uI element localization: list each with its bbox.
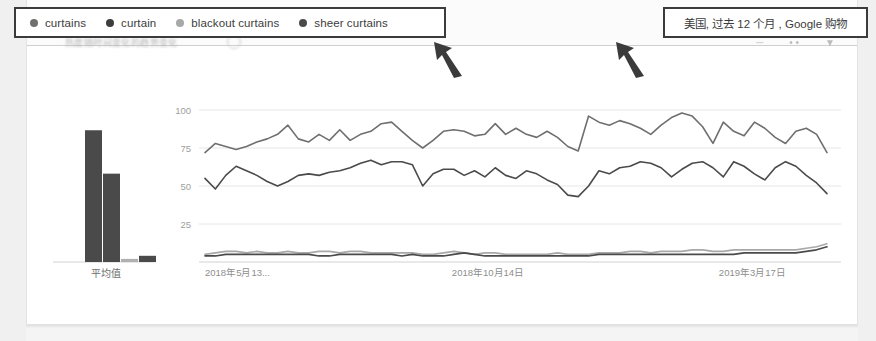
x-axis-tick-label: 2018年5月13... [205,267,270,278]
line-series-curtain[interactable] [205,160,827,196]
legend-item-label: curtains [45,17,86,29]
legend-item-curtain[interactable]: curtain [106,17,156,29]
legend-item-label: sheer curtains [314,17,388,29]
legend-highlight-box: curtainscurtainblackout curtainssheer cu… [14,7,446,38]
legend-dot-icon [30,19,38,27]
y-axis-tick-label: 50 [180,181,191,192]
x-axis-tick-label: 2019年3月17日 [719,267,786,278]
bar-chart-axis-label: 平均值 [91,267,121,279]
right-gutter [858,0,876,341]
bar-curtains[interactable] [85,130,102,262]
legend-dot-icon [299,19,307,27]
legend-item-sheer-curtains[interactable]: sheer curtains [299,17,388,29]
left-gutter [0,0,26,341]
legend-dot-icon [106,19,114,27]
trends-chart[interactable]: 2550751002018年5月13...2018年10月14日2019年3月1… [27,47,857,279]
card-shadow [26,325,858,328]
locale-highlight-box: 美国, 过去 12 个月 , Google 购物 [663,7,868,38]
legend-item-blackout-curtains[interactable]: blackout curtains [176,17,279,29]
x-axis-tick-label: 2018年10月14日 [452,267,524,278]
y-axis-tick-label: 75 [180,143,191,154]
screenshot-root: 热度随时间变化的趋势变化 ─ • • ▼ 2550751002018年5月13.… [0,0,876,341]
legend-item-label: blackout curtains [191,17,279,29]
y-axis-tick-label: 100 [175,105,191,116]
annotation-arrow-left [432,36,496,78]
chart-area: 2550751002018年5月13...2018年10月14日2019年3月1… [27,47,857,279]
y-axis-tick-label: 25 [180,219,191,230]
legend-item-curtains[interactable]: curtains [30,17,86,29]
bar-sheer-curtains[interactable] [139,256,156,262]
bar-blackout-curtains[interactable] [121,259,138,262]
line-series-blackout-curtains[interactable] [205,244,827,255]
legend-dot-icon [176,19,184,27]
bar-curtain[interactable] [103,174,120,262]
locale-label: 美国, 过去 12 个月 , Google 购物 [684,15,847,31]
annotation-arrow-right [614,36,678,78]
line-series-curtains[interactable] [205,113,827,153]
legend-item-label: curtain [121,17,156,29]
